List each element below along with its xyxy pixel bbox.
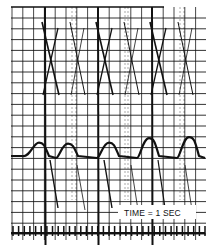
spike-trace <box>45 7 46 245</box>
lower-trace-line <box>185 165 192 210</box>
spike-trace <box>98 7 99 245</box>
crossing-traces <box>42 22 193 95</box>
lower-trace-line <box>131 165 138 210</box>
strip-chart: TIME = 1 SEC <box>0 0 215 250</box>
lower-trace-line <box>50 160 58 208</box>
lower-traces <box>50 160 192 210</box>
time-label: TIME = 1 SEC <box>124 208 181 218</box>
lower-trace-line <box>104 160 112 208</box>
lower-trace-line <box>158 160 165 208</box>
lower-trace-line <box>77 165 85 210</box>
